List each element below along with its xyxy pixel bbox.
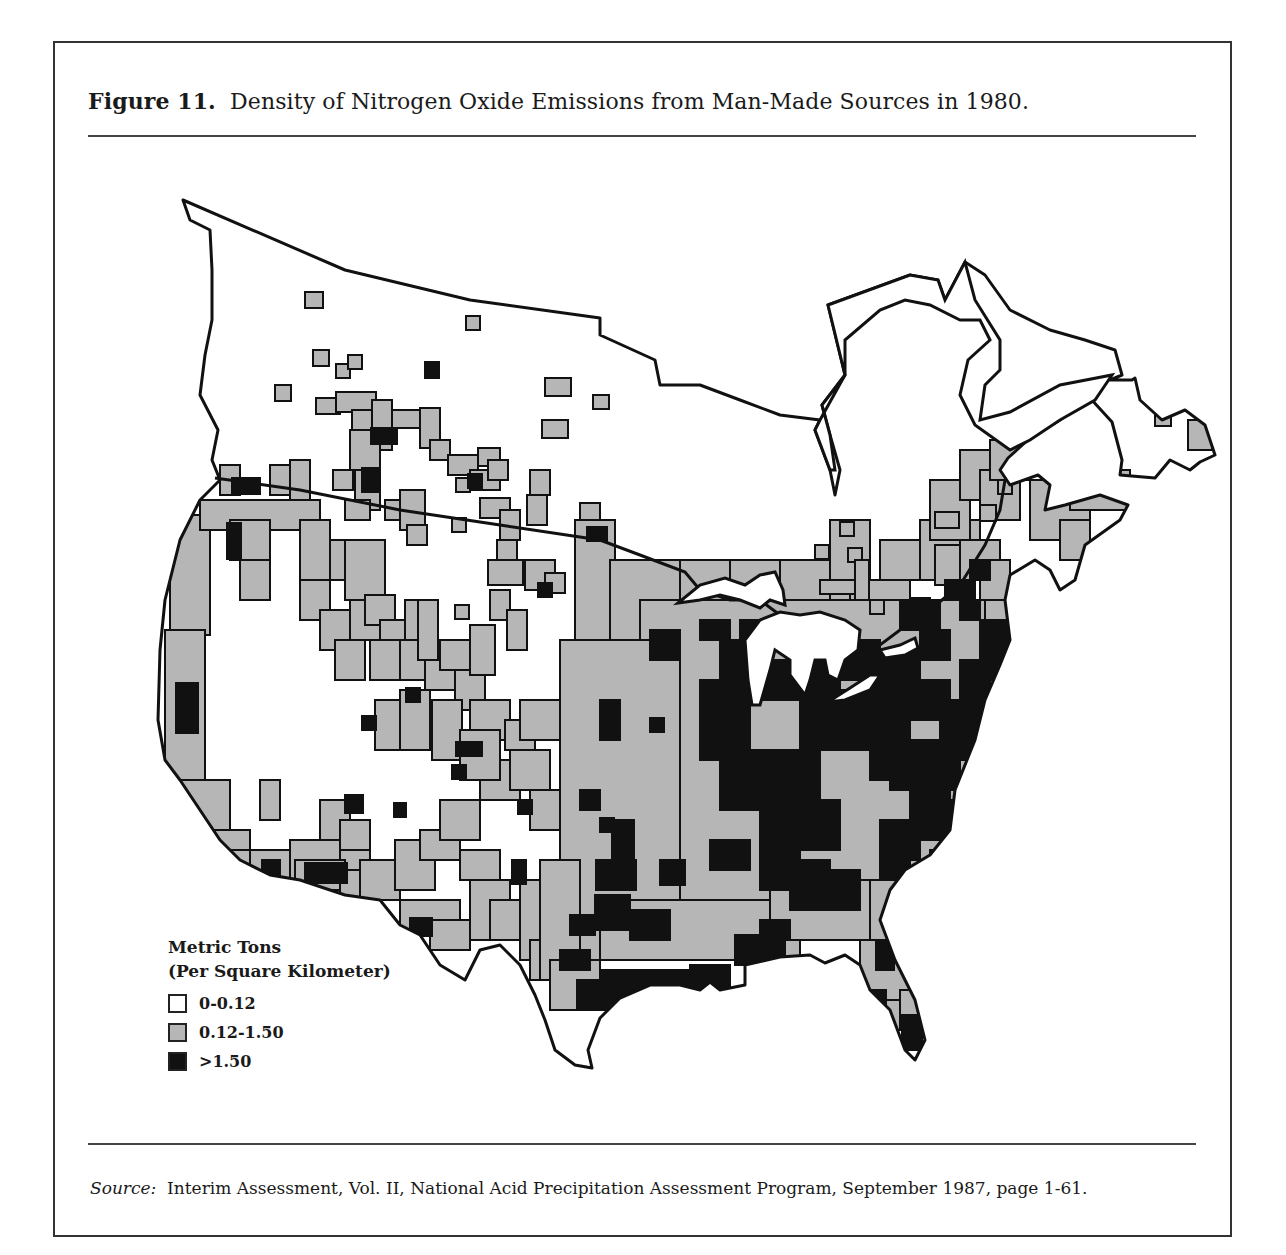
map-cell	[430, 920, 470, 950]
map-cell	[830, 870, 860, 910]
map-cell	[538, 583, 552, 597]
legend-swatch-white	[168, 994, 187, 1013]
map-cell	[960, 600, 980, 620]
hudson-bay	[815, 262, 1112, 470]
map-cell	[880, 850, 910, 880]
map-cell	[910, 680, 950, 720]
source-text: Interim Assessment, Vol. II, National Ac…	[167, 1178, 1087, 1198]
map-cell	[630, 910, 670, 940]
map-cell	[520, 700, 560, 740]
legend-item-high: >1.50	[168, 1047, 391, 1076]
legend-swatch-gray	[168, 1023, 187, 1042]
map-cell	[855, 560, 869, 600]
map-cell	[305, 292, 323, 308]
map-cell	[530, 470, 550, 495]
map-cell	[1060, 520, 1090, 560]
map-cell	[876, 940, 894, 970]
map-cell	[710, 840, 750, 870]
map-cell	[507, 610, 527, 650]
map-cell	[980, 505, 996, 521]
map-cell	[313, 350, 329, 366]
legend-label-high: >1.50	[199, 1052, 251, 1071]
map-cell	[570, 915, 595, 935]
legend: Metric Tons (Per Square Kilometer) 0-0.1…	[168, 935, 391, 1076]
map-cell	[930, 850, 960, 870]
map-cell	[920, 630, 950, 660]
legend-title-2: (Per Square Kilometer)	[168, 959, 391, 983]
map-cell	[370, 640, 400, 680]
legend-item-mid: 0.12-1.50	[168, 1018, 391, 1047]
map-cell	[227, 523, 241, 559]
map-cell	[372, 400, 392, 430]
map-cell	[580, 790, 600, 810]
map-cell	[650, 718, 664, 732]
map-cell	[545, 378, 571, 396]
map-cell	[900, 870, 940, 900]
legend-label-mid: 0.12-1.50	[199, 1023, 284, 1042]
map-cell	[452, 765, 466, 779]
map-cell	[170, 820, 200, 860]
map-cell	[870, 600, 884, 614]
map-cell	[418, 600, 438, 660]
map-cell	[300, 520, 330, 580]
map-cell	[176, 683, 198, 733]
map-cell	[425, 362, 439, 378]
map-cell	[815, 545, 829, 559]
map-cell	[760, 920, 790, 940]
map-cell	[488, 460, 508, 480]
map-cell	[840, 522, 854, 536]
map-cell	[700, 680, 750, 760]
map-cell	[340, 820, 370, 850]
map-cell	[470, 625, 495, 675]
legend-label-low: 0-0.12	[199, 994, 256, 1013]
map-cell	[240, 560, 270, 600]
map-cell	[333, 470, 353, 490]
source-note: Source: Interim Assessment, Vol. II, Nat…	[90, 1178, 1087, 1198]
map-cell	[362, 468, 378, 492]
map-cell	[760, 800, 840, 850]
map-cell	[455, 605, 469, 619]
map-cell	[577, 980, 602, 1010]
map-cell	[275, 385, 291, 401]
map-cell	[560, 950, 590, 970]
map-cell	[345, 795, 363, 813]
map-cell	[456, 742, 482, 756]
map-cell	[362, 716, 376, 730]
map-cell	[790, 860, 830, 910]
map-cell	[510, 750, 550, 790]
map-cell	[466, 316, 480, 330]
legend-swatch-black	[168, 1052, 187, 1071]
map-cell	[460, 850, 500, 880]
map-cell	[371, 428, 397, 444]
map-cell	[468, 474, 482, 488]
map-cell	[406, 688, 420, 702]
map-cell	[345, 540, 385, 600]
map-cell	[170, 515, 210, 635]
map-cell	[305, 863, 347, 883]
map-cell	[394, 803, 406, 817]
map-cell	[596, 860, 636, 890]
map-cell	[950, 800, 990, 840]
map-cell	[440, 800, 480, 840]
legend-item-low: 0-0.12	[168, 989, 391, 1018]
source-prefix: Source:	[90, 1178, 156, 1198]
map-cell	[542, 420, 568, 438]
map-cell	[488, 560, 523, 585]
map-cell	[935, 512, 959, 528]
map-cell	[290, 460, 310, 505]
map-cell	[407, 525, 427, 545]
map-cell	[600, 700, 620, 740]
map-cell	[260, 780, 280, 820]
legend-title-1: Metric Tons	[168, 935, 391, 959]
map-cell	[512, 860, 526, 884]
map-cell	[593, 395, 609, 409]
map-cell	[518, 800, 532, 814]
map-cell	[527, 495, 547, 525]
map-cell	[530, 790, 560, 830]
map-cell	[335, 640, 365, 680]
source-rule	[88, 1143, 1196, 1145]
map-cell	[650, 630, 680, 660]
map-cell	[348, 355, 362, 369]
map-cell	[595, 895, 630, 930]
map-cell	[660, 860, 685, 885]
